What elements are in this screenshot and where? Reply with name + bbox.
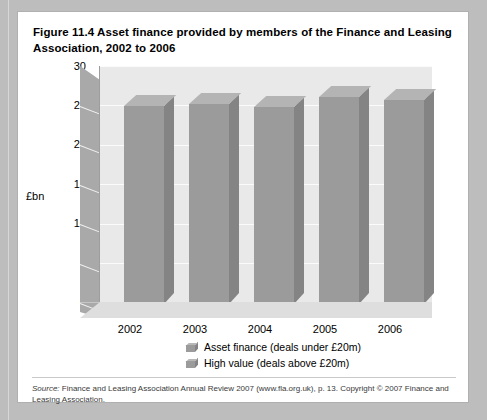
legend-item-asset-finance: Asset finance (deals under £20m) (18, 341, 470, 353)
legend-swatch-icon (186, 343, 197, 352)
x-tick-label: 2002 (118, 323, 142, 335)
x-axis-tick-labels: 2002 2003 2004 2005 2006 (80, 323, 432, 341)
source-text: Finance and Leasing Association Annual R… (32, 384, 449, 404)
bar-side-face (359, 86, 369, 304)
bar-2006 (384, 100, 424, 304)
x-tick-label: 2006 (378, 323, 402, 335)
source-prefix: Source: (32, 384, 60, 393)
figure-box: Figure 11.4 Asset finance provided by me… (17, 11, 469, 403)
bar-side-face (164, 95, 174, 304)
plot-3d-region (80, 66, 432, 318)
bar-front-face (254, 107, 294, 304)
bar-front-face (384, 100, 424, 304)
plot-floor (80, 302, 432, 318)
x-tick-label: 2004 (248, 323, 272, 335)
legend-item-high-value: High value (deals above £20m) (18, 357, 470, 369)
bar-2002 (124, 106, 164, 304)
figure-number: Figure 11.4 (33, 26, 94, 38)
bar-front-face (189, 104, 229, 304)
plot-side-wall-gridlines (80, 66, 100, 318)
bar-side-face (229, 93, 239, 304)
bar-2005 (319, 97, 359, 304)
bar-front-face (124, 106, 164, 304)
chart-legend: Asset finance (deals under £20m) High va… (18, 341, 470, 373)
bar-side-face (294, 96, 304, 304)
chart-area: £bn 30 25 20 15 10 5 0 (18, 59, 470, 339)
bar-2003 (189, 104, 229, 304)
figure-title-text: Asset finance provided by members of the… (33, 26, 452, 54)
bar-front-face (319, 97, 359, 304)
x-tick-label: 2005 (313, 323, 337, 335)
source-note: Source: Finance and Leasing Association … (32, 383, 460, 405)
bar-side-face (424, 89, 434, 304)
y-axis-unit-label: £bn (26, 190, 44, 202)
legend-label: Asset finance (deals under £20m) (204, 341, 361, 353)
page-gutter-line (8, 0, 9, 420)
figure-title: Figure 11.4 Asset finance provided by me… (33, 24, 453, 56)
legend-label: High value (deals above £20m) (204, 357, 349, 369)
legend-swatch-icon (186, 359, 197, 368)
x-tick-label: 2003 (183, 323, 207, 335)
bar-series-group (100, 66, 432, 304)
bar-2004 (254, 107, 294, 304)
source-divider (32, 377, 456, 378)
